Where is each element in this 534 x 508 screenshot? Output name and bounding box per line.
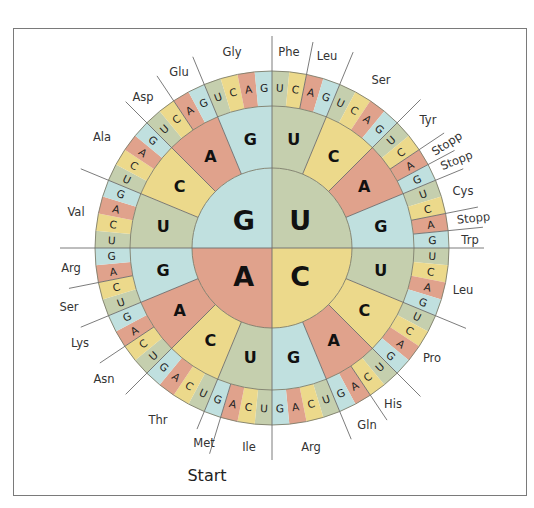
amino-acid-label-asp: Asp: [132, 90, 153, 104]
second-base-letter: C: [174, 177, 186, 196]
third-base-letter: G: [260, 82, 269, 94]
first-base-letter: U: [289, 205, 311, 236]
amino-acid-label-arg: Arg: [61, 261, 81, 275]
second-base-letter: G: [244, 130, 257, 149]
first-base-letter: C: [290, 261, 310, 292]
third-base-letter: G: [276, 402, 285, 414]
amino-acid-label-ala: Ala: [93, 130, 111, 144]
amino-acid-label-stopp: Stopp: [456, 209, 491, 226]
third-base-letter: U: [428, 250, 436, 262]
third-base-letter: G: [428, 234, 437, 246]
second-base-letter: C: [358, 301, 370, 320]
genetic-code-wheel: UCAGUCAGUCAGUCAGUCAGUCAGUCAGUCAGUCAGUCAG…: [0, 0, 534, 508]
third-base-letter: U: [108, 234, 116, 246]
amino-acid-label-leu: Leu: [317, 49, 338, 63]
amino-acid-label-leu: Leu: [453, 283, 474, 297]
amino-acid-label-asn: Asn: [93, 372, 114, 386]
amino-acid-label-lys: Lys: [71, 336, 89, 350]
third-base-letter: U: [276, 82, 284, 94]
start-codon-label: Start: [187, 466, 226, 485]
amino-acid-divider-lines: [60, 36, 484, 460]
amino-acid-label-ile: Ile: [242, 440, 256, 454]
second-base-letter: A: [327, 331, 340, 350]
second-base-letter: G: [287, 348, 300, 367]
amino-acid-label-his: His: [384, 397, 402, 411]
second-base-letter: C: [204, 331, 216, 350]
amino-acid-label-glu: Glu: [169, 65, 188, 79]
second-base-letter: U: [287, 130, 300, 149]
amino-acid-label-pro: Pro: [423, 351, 441, 365]
first-base-letter: A: [233, 261, 254, 292]
second-base-letter: G: [374, 217, 387, 236]
third-base-letter: G: [107, 250, 116, 262]
amino-acid-label-met: Met: [193, 436, 215, 450]
amino-acid-label-val: Val: [67, 205, 84, 219]
amino-acid-label-trp: Trp: [460, 233, 478, 247]
second-base-letter: U: [374, 261, 387, 280]
amino-acid-label-arg: Arg: [301, 440, 321, 454]
third-base-letter: U: [260, 402, 268, 414]
second-base-letter: G: [157, 261, 170, 280]
second-base-letter: A: [358, 177, 371, 196]
amino-acid-label-ser: Ser: [371, 73, 390, 87]
second-base-letter: C: [328, 147, 340, 166]
second-base-letter: U: [157, 217, 170, 236]
first-base-letter: G: [233, 205, 255, 236]
amino-acid-label-tyr: Tyr: [419, 113, 437, 127]
amino-acid-label-cys: Cys: [453, 184, 474, 198]
second-base-letter: A: [204, 147, 217, 166]
amino-acid-label-gln: Gln: [357, 418, 376, 432]
second-base-letter: A: [174, 301, 187, 320]
amino-acid-label-phe: Phe: [278, 45, 299, 59]
amino-acid-label-thr: Thr: [147, 413, 167, 427]
amino-acid-label-ser: Ser: [59, 300, 78, 314]
amino-acid-label-gly: Gly: [223, 45, 242, 59]
second-base-letter: U: [244, 348, 257, 367]
